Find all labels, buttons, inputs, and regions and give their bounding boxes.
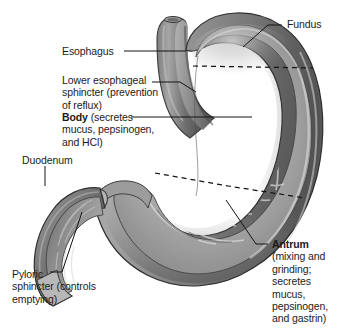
label-body: Body (secretes mucus, pepsinogen, and HC… bbox=[62, 111, 192, 148]
label-lower-esophageal-sphincter-text: Lower esophageal sphincter (prevention o… bbox=[62, 74, 158, 111]
label-pyloric-sphincter: Pyloric sphincter (controls emptying) bbox=[12, 268, 140, 305]
stomach-anatomy-figure: Fundus Esophagus Lower esophageal sphinc… bbox=[0, 0, 344, 333]
esophagus-lumen-opening bbox=[167, 18, 178, 21]
label-esophagus: Esophagus bbox=[62, 45, 114, 57]
label-duodenum: Duodenum bbox=[22, 154, 73, 166]
label-body-head: Body bbox=[62, 111, 88, 123]
fundus-highlight bbox=[192, 24, 292, 80]
label-duodenum-text: Duodenum bbox=[22, 154, 73, 166]
label-pyloric-sphincter-text: Pyloric sphincter (controls emptying) bbox=[12, 268, 96, 305]
label-fundus-text: Fundus bbox=[287, 18, 321, 30]
label-lower-esophageal-sphincter: Lower esophageal sphincter (prevention o… bbox=[62, 74, 194, 111]
label-antrum: Antrum (mixing and grinding; secretes mu… bbox=[272, 238, 344, 325]
label-fundus: Fundus bbox=[287, 18, 321, 30]
label-antrum-detail: (mixing and grinding; secretes mucus, pe… bbox=[272, 250, 328, 324]
label-esophagus-text: Esophagus bbox=[62, 45, 114, 57]
label-antrum-head: Antrum bbox=[272, 238, 309, 250]
